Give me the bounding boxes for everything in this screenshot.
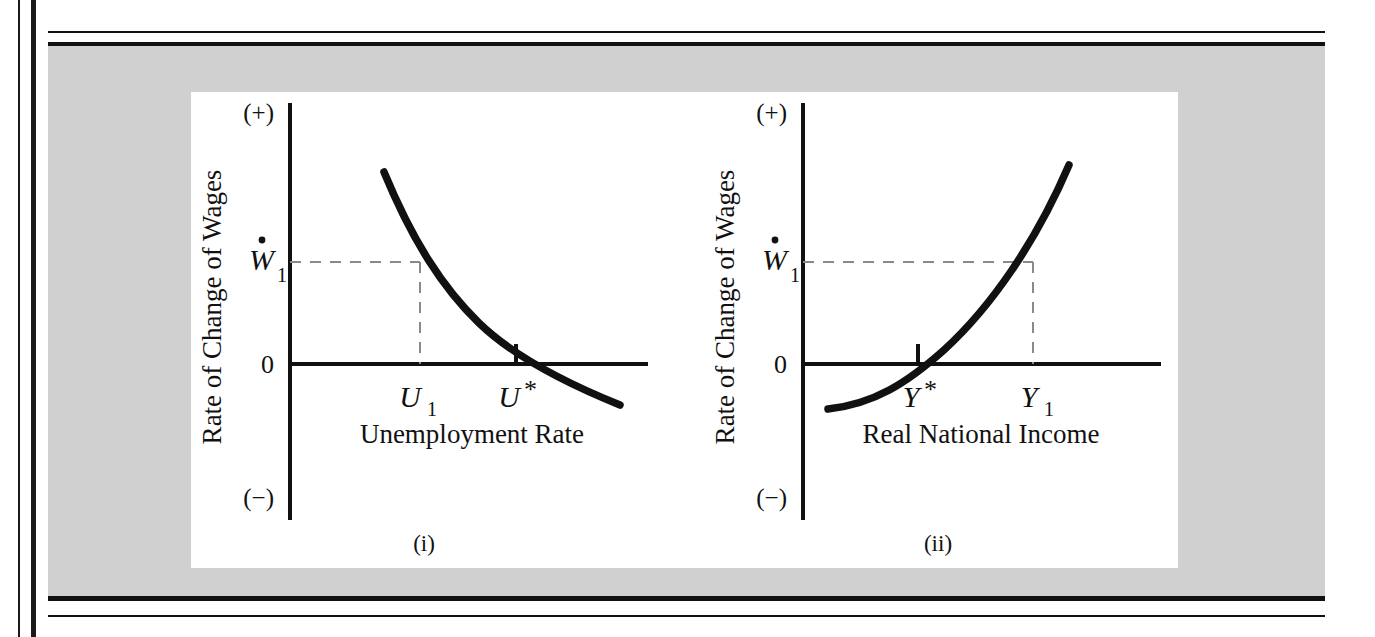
- panel-ii-xtick-y1-sub: 1: [1044, 398, 1054, 420]
- panel-i-w1-label: W 1: [249, 237, 287, 286]
- panel-ii-xtick-y1-var: Y: [1021, 380, 1041, 413]
- panel-ii-xtick-y-star: Y *: [903, 375, 937, 413]
- panel-i-w1-sub: 1: [277, 264, 287, 286]
- panel-i-xtick-u1-var: U: [399, 380, 423, 413]
- panel-ii-caption: (ii): [924, 531, 952, 556]
- panel-ii-w1-sub: 1: [790, 264, 800, 286]
- panel-ii-w1-var: W: [762, 243, 790, 276]
- panel-i-minus-label: (−): [243, 484, 274, 512]
- panel-i-xtick-u-star-var: U: [498, 380, 522, 413]
- panel-i-w1-dot-icon: [259, 237, 266, 244]
- page-rule-bottom-thin: [48, 615, 1325, 617]
- phillips-curve-chart: (+) (−) 0 W 1 Rate of Change of Wages U …: [191, 92, 1178, 568]
- panel-ii-x-axis-title: Real National Income: [863, 419, 1100, 449]
- page-rule-vertical-thin: [18, 0, 20, 637]
- panel-i-plus-label: (+): [243, 99, 274, 127]
- panel-i-xtick-u-star-glyph: *: [524, 375, 537, 404]
- panel-ii-xtick-y-star-glyph: *: [924, 375, 937, 404]
- panel-i-caption: (i): [413, 531, 435, 556]
- panel-ii-group: (+) (−) 0 W 1 Rate of Change of Wages Y …: [710, 99, 1161, 556]
- panel-i-x-axis-title: Unemployment Rate: [360, 419, 584, 449]
- panel-i-xtick-u1-sub: 1: [427, 398, 437, 420]
- panel-ii-plus-label: (+): [756, 99, 787, 127]
- panel-ii-xtick-y-star-var: Y: [903, 380, 923, 413]
- page-rule-vertical-thick: [31, 0, 36, 637]
- panel-ii-minus-label: (−): [756, 484, 787, 512]
- panel-i-w1-var: W: [249, 243, 277, 276]
- panel-ii-y-axis-title: Rate of Change of Wages: [710, 170, 740, 445]
- panel-i-xtick-u1: U 1: [399, 380, 437, 420]
- panel-i-group: (+) (−) 0 W 1 Rate of Change of Wages U …: [197, 99, 648, 556]
- panel-i-y-axis-title: Rate of Change of Wages: [197, 170, 227, 445]
- panel-ii-xtick-y1: Y 1: [1021, 380, 1054, 420]
- panel-ii-zero-label: 0: [774, 350, 787, 379]
- panel-ii-w1-label: W 1: [762, 237, 800, 286]
- page-rule-top-thin: [48, 31, 1325, 33]
- figure-white-card: (+) (−) 0 W 1 Rate of Change of Wages U …: [191, 92, 1178, 568]
- panel-ii-w1-dot-icon: [772, 237, 779, 244]
- panel-i-zero-label: 0: [261, 350, 274, 379]
- panel-i-xtick-u-star: U *: [498, 375, 537, 413]
- figure-root: (+) (−) 0 W 1 Rate of Change of Wages U …: [0, 0, 1375, 637]
